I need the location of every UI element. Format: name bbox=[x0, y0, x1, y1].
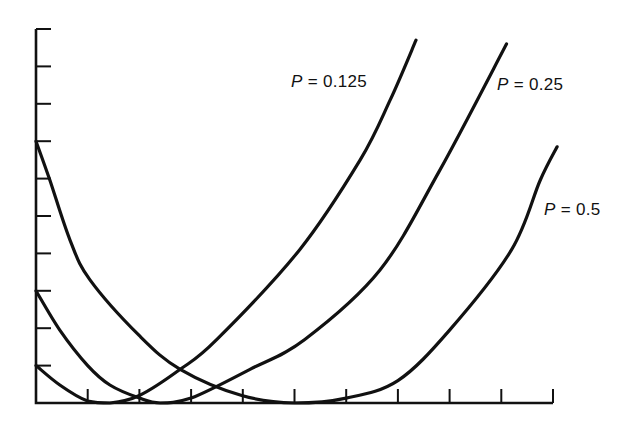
curve-p-0-5 bbox=[36, 141, 557, 403]
curve-p-0-25 bbox=[36, 44, 507, 403]
curve-label-p-0-125: P = 0.125 bbox=[291, 72, 367, 92]
curve-label-p-0-25: P = 0.25 bbox=[497, 75, 563, 95]
curve-label-p-0-5: P = 0.5 bbox=[544, 200, 600, 220]
curve-p-0-125 bbox=[36, 40, 416, 403]
